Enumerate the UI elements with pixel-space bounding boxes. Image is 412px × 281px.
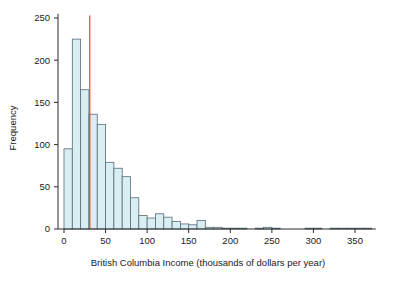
histogram-bar <box>164 217 172 229</box>
x-tick-label: 300 <box>306 235 322 246</box>
histogram-bar <box>72 39 80 229</box>
x-tick-label: 250 <box>264 235 280 246</box>
x-tick-label: 350 <box>347 235 363 246</box>
y-tick-label: 150 <box>34 97 50 108</box>
histogram-bars <box>64 39 372 229</box>
histogram-bar <box>81 90 89 229</box>
x-tick-label: 50 <box>100 235 111 246</box>
y-axis-ticks: 050100150200250 <box>34 12 58 234</box>
histogram-bar <box>114 168 122 229</box>
histogram-bar <box>131 198 139 229</box>
y-tick-label: 50 <box>39 181 50 192</box>
y-tick-label: 100 <box>34 139 50 150</box>
x-axis-title: British Columbia Income (thousands of do… <box>91 257 325 268</box>
histogram-bar <box>189 225 197 229</box>
histogram-bar <box>97 124 105 229</box>
histogram-bar <box>122 177 130 229</box>
histogram-bar <box>172 221 180 229</box>
histogram-bar <box>147 218 155 229</box>
y-tick-label: 200 <box>34 55 50 66</box>
histogram-bar <box>64 149 72 229</box>
histogram-bar <box>139 216 147 230</box>
y-axis-title: Frequency <box>7 105 18 150</box>
histogram-bar <box>180 224 188 229</box>
x-tick-label: 150 <box>181 235 197 246</box>
histogram-svg: 050100150200250 050100150200250300350 Fr… <box>0 0 412 281</box>
y-tick-label: 0 <box>45 223 50 234</box>
histogram-bar <box>106 162 114 229</box>
x-axis-ticks: 050100150200250300350 <box>61 229 363 246</box>
x-tick-label: 200 <box>222 235 238 246</box>
histogram-bar <box>155 214 163 229</box>
y-tick-label: 250 <box>34 12 50 23</box>
x-tick-label: 0 <box>61 235 66 246</box>
histogram-bar <box>197 221 205 229</box>
x-tick-label: 100 <box>139 235 155 246</box>
histogram-figure: 050100150200250 050100150200250300350 Fr… <box>0 0 412 281</box>
